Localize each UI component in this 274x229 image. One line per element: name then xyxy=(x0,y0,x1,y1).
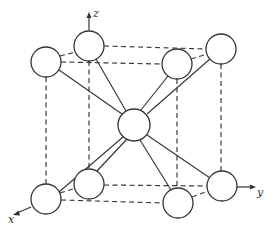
atom-top-back-left xyxy=(74,31,104,61)
edge-bottom-right xyxy=(192,191,208,197)
y-axis-arrow-icon xyxy=(250,185,256,190)
edge-top-front xyxy=(61,62,162,64)
bond-bottom-back-right xyxy=(147,135,210,178)
atom-top-front-left xyxy=(31,47,61,77)
bond-top-front-left xyxy=(59,70,122,114)
atom-bottom-back-right xyxy=(207,171,237,201)
atom-center xyxy=(118,109,150,141)
atom-top-back-right xyxy=(206,34,236,64)
atom-top-front-right xyxy=(162,49,192,79)
atom-bottom-back-left xyxy=(74,169,104,199)
lattice-svg: z y x xyxy=(0,0,274,229)
bcc-lattice-diagram: z y x xyxy=(0,0,274,229)
y-axis-label: y xyxy=(256,186,264,199)
atom-bottom-front-left xyxy=(31,184,61,214)
atom-bottom-front-right xyxy=(163,188,193,218)
x-axis-line xyxy=(17,207,31,213)
bond-top-front-right xyxy=(141,76,168,110)
x-axis-label: x xyxy=(8,213,15,226)
edge-top-right xyxy=(191,54,207,59)
edge-bottom-back xyxy=(104,185,207,186)
z-axis-label: z xyxy=(92,7,99,20)
edge-top-left xyxy=(60,52,76,56)
edge-top-back xyxy=(104,46,206,49)
edge-bottom-front xyxy=(61,200,163,203)
z-axis-arrow-icon xyxy=(87,12,92,18)
bond-top-back-left xyxy=(96,59,126,111)
